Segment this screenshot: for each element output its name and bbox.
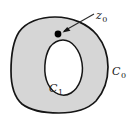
figure-container: z0 C0 C1 <box>0 0 132 123</box>
label-z0: z0 <box>96 6 107 22</box>
label-c1-symbol: C <box>49 82 57 95</box>
label-z0-symbol: z <box>96 9 102 22</box>
label-c1: C1 <box>49 79 63 95</box>
label-z0-subscript: 0 <box>102 15 107 24</box>
point-z0-marker <box>55 31 62 38</box>
label-c0-symbol: C <box>112 65 120 78</box>
label-c0: C0 <box>112 62 126 78</box>
label-c1-subscript: 1 <box>58 88 63 97</box>
label-c0-subscript: 0 <box>121 71 126 80</box>
